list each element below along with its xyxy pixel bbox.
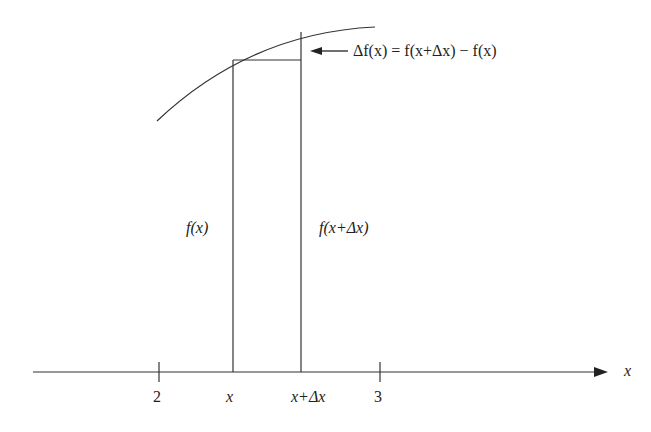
delta-f-annotation: Δf(x) = f(x+Δx) − f(x) [353,43,497,59]
annotation-arrowhead [310,47,322,55]
x-axis-label: x [624,363,631,379]
f-x-label: f(x) [186,220,208,236]
x-axis-arrowhead [594,367,608,377]
x-mark-label: x [226,389,233,405]
diagram-canvas [0,0,651,432]
function-curve [157,27,375,121]
tick-label-2: 2 [153,389,161,405]
f-x-plus-dx-label: f(x+Δx) [319,220,369,236]
tick-label-3: 3 [374,389,382,405]
x-plus-dx-mark-label: x+Δx [291,389,325,405]
